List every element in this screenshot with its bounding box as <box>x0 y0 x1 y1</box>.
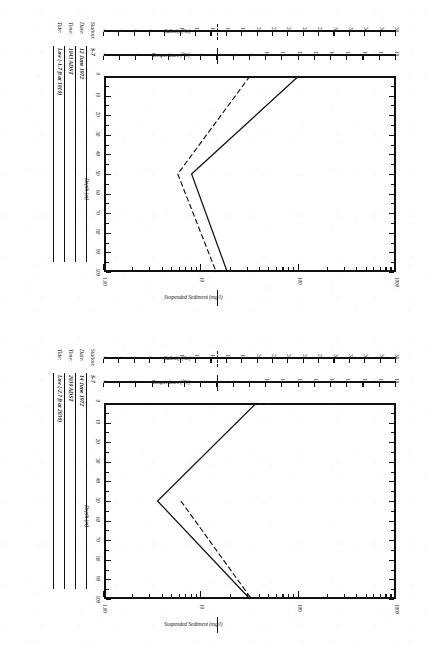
depth-minor-tick <box>106 164 109 165</box>
depth-tick-top <box>389 252 394 253</box>
tide-value-2: Low (-2.7 ft at 2030) <box>57 375 63 422</box>
date-label-2: Date: <box>79 349 85 362</box>
tide-row-2: Tide: Low (-2.7 ft at 2030) <box>52 349 63 589</box>
scale-tick-label: 8 <box>231 53 236 56</box>
sediment-decade-tick <box>395 264 396 270</box>
scale-tick-label: 26 <box>301 354 306 359</box>
sediment-minor-tick <box>380 594 381 597</box>
depth-minor-tick-top <box>391 569 394 570</box>
scale-tick-label: 20 <box>255 27 260 32</box>
legend-key <box>217 351 218 367</box>
scale-tick-label: 11 <box>280 378 285 383</box>
scale-tick-label: 15 <box>345 378 350 383</box>
scale-tick-label: 22 <box>271 27 276 32</box>
scale-tick-label: 10 <box>264 378 269 383</box>
depth-minor-tick <box>106 412 109 413</box>
sediment-minor-tick <box>293 594 294 597</box>
depth-tick-top <box>389 481 394 482</box>
depth-tick-top <box>389 403 394 404</box>
time-row-2: Time: 2030 ADST <box>63 349 74 589</box>
scale-tick-label: 14 <box>329 51 334 56</box>
time-value-1: 1043 ADST <box>68 48 74 75</box>
time-value-2: 2030 ADST <box>68 375 74 402</box>
sediment-minor-tick <box>390 594 391 597</box>
sediment-minor-tick <box>327 594 328 597</box>
scale-tick-label: 36 <box>378 354 383 359</box>
sediment-minor-tick <box>366 594 367 597</box>
scale-tick-label: 30 <box>332 354 337 359</box>
depth-tick <box>106 461 111 462</box>
depth-minor-tick <box>106 491 109 492</box>
sediment-decade-tick <box>298 264 299 270</box>
time-label-2: Time: <box>68 349 74 362</box>
sediment-decade-label: 100 <box>296 604 301 612</box>
depth-minor-tick-top <box>391 183 394 184</box>
scale-tick-label: 32 <box>347 27 352 32</box>
salinity-scale-2: 02468101214161820222426283032343638 <box>104 357 396 367</box>
sediment-decade-label: 100 <box>296 277 301 285</box>
sediment-minor-tick <box>162 267 163 270</box>
depth-minor-tick <box>106 569 109 570</box>
depth-tick-top <box>389 95 394 96</box>
depth-minor-tick <box>106 452 109 453</box>
scale-tick-label: 32 <box>347 354 352 359</box>
scale-tick-label: 6 <box>148 29 153 32</box>
station-label-2: Station: <box>90 349 96 367</box>
scale-tick-label: 12 <box>194 354 199 359</box>
sediment-decade-tick <box>200 591 201 597</box>
sediment-minor-tick <box>162 594 163 597</box>
sediment-decade-label: 1.00 <box>102 604 107 613</box>
depth-tick-top <box>389 193 394 194</box>
sediment-minor-tick <box>259 267 260 270</box>
sediment-minor-tick <box>356 267 357 270</box>
station-rule-1 <box>87 46 88 262</box>
depth-minor-tick <box>106 203 109 204</box>
depth-tick-top <box>389 540 394 541</box>
scale-tick-label: 0 <box>102 29 107 32</box>
scale-tick-label: 38 <box>394 354 399 359</box>
depth-minor-tick <box>106 144 109 145</box>
depth-tick-top <box>389 501 394 502</box>
depth-minor-tick-top <box>391 432 394 433</box>
depth-minor-tick <box>106 125 109 126</box>
plot-area-1: 01020304050607080901001.00101001000 <box>104 76 396 272</box>
depth-tick <box>106 252 111 253</box>
scale-tick-label: 0 <box>102 380 107 383</box>
sediment-minor-tick <box>196 267 197 270</box>
sediment-decade-label: 1.00 <box>102 277 107 286</box>
depth-minor-tick-top <box>391 242 394 243</box>
depth-minor-tick-top <box>391 510 394 511</box>
depth-tick <box>106 272 111 273</box>
legend-key <box>217 290 218 306</box>
sediment-decade-tick <box>103 264 104 270</box>
tide-label-2: Tide: <box>57 349 63 361</box>
scale-tick-label: 10 <box>264 51 269 56</box>
scale-tick-label: 30 <box>332 27 337 32</box>
date-label-1: Date: <box>79 22 85 35</box>
depth-tick <box>106 579 111 580</box>
depth-tick-top <box>389 213 394 214</box>
depth-minor-tick <box>106 183 109 184</box>
scale-tick-label: 14 <box>209 354 214 359</box>
scale-tick-label: 0 <box>102 53 107 56</box>
depth-tick <box>106 559 111 560</box>
sediment-minor-tick <box>327 267 328 270</box>
legend-key <box>217 24 218 40</box>
depth-tick <box>106 599 111 600</box>
legend-key <box>217 375 218 391</box>
salinity-axis-title-1: Salinity (‰) <box>164 28 191 34</box>
depth-tick <box>106 134 111 135</box>
sediment-minor-tick <box>247 594 248 597</box>
scale-tick-label: 36 <box>378 27 383 32</box>
sediment-minor-tick <box>185 267 186 270</box>
scale-tick-label: 12 <box>194 27 199 32</box>
sediment-decade-tick <box>103 591 104 597</box>
depth-tick <box>106 115 111 116</box>
sediment-minor-tick <box>356 594 357 597</box>
series-layer-1 <box>104 76 396 272</box>
sediment-axis-title-2: Suspended Sediment (mg/l) <box>164 621 222 627</box>
sediment-minor-tick <box>149 594 150 597</box>
depth-tick <box>106 154 111 155</box>
station-info-block-2: Station: S-7 Date: 14 June 1972 Time: 20… <box>52 349 96 589</box>
sediment-minor-tick <box>344 594 345 597</box>
